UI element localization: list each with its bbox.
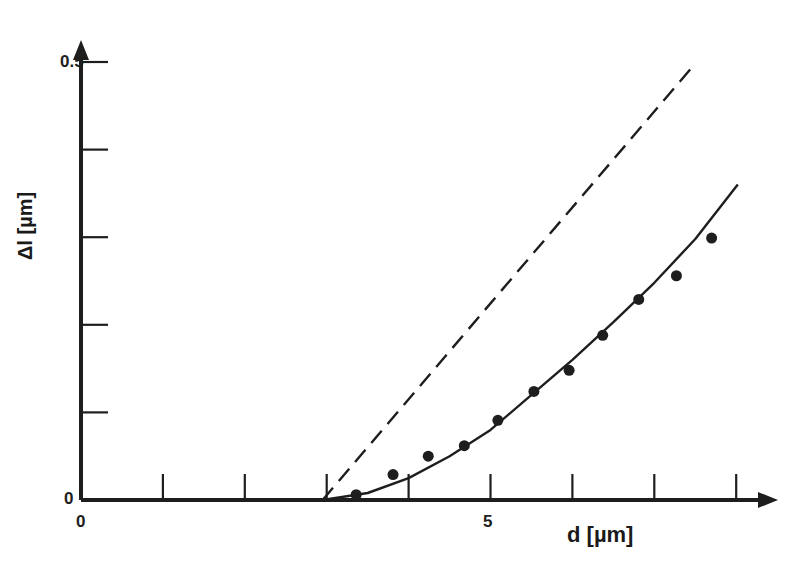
- data-point: [706, 233, 717, 244]
- x-axis-arrow-icon: [758, 492, 778, 508]
- y-tick-label-top: 0.5: [60, 52, 84, 72]
- data-point: [388, 469, 399, 480]
- plot-area: [0, 0, 792, 568]
- x-tick-label-five: 5: [483, 512, 492, 532]
- dashed-reference-line: [323, 66, 693, 500]
- y-axis-label: Δl [µm]: [14, 192, 37, 260]
- x-tick-label-origin: 0: [76, 512, 85, 532]
- fit-curve: [323, 185, 738, 500]
- data-point: [423, 451, 434, 462]
- x-axis-label: d [µm]: [567, 522, 633, 548]
- chart-container: 0.5 0 0 5 d [µm] Δl [µm]: [0, 0, 792, 568]
- y-tick-label-origin: 0: [64, 489, 73, 509]
- data-point: [671, 270, 682, 281]
